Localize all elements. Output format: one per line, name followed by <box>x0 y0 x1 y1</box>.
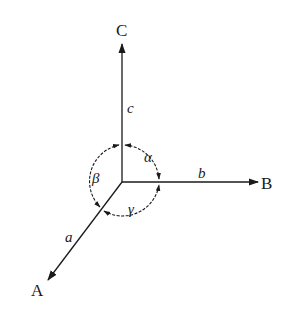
angle-alpha-arc <box>125 145 159 179</box>
diagram-canvas: C B A c b a α β γ <box>0 0 300 314</box>
angle-label-beta: β <box>91 170 100 186</box>
axis-label-c: C <box>116 21 127 40</box>
edge-label-b: b <box>198 165 206 181</box>
edge-label-a: a <box>65 229 73 245</box>
axis-label-a: A <box>31 281 44 300</box>
edge-label-c: c <box>127 100 134 116</box>
angle-label-gamma: γ <box>128 201 135 217</box>
angle-label-alpha: α <box>144 149 153 165</box>
unit-cell-axes-diagram: C B A c b a α β γ <box>0 0 300 314</box>
axis-label-b: B <box>261 174 272 193</box>
axis-a <box>48 182 122 280</box>
